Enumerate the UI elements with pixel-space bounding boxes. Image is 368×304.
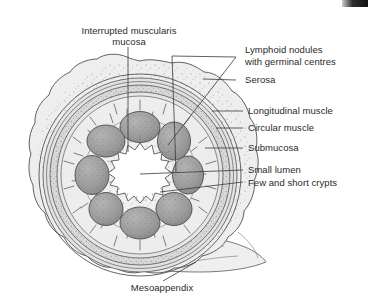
label-muscularis-mucosa-line1: Interrupted muscularis (81, 25, 176, 36)
label-few-and-short-crypts: Few and short crypts (248, 177, 337, 188)
label-serosa: Serosa (245, 74, 276, 85)
label-circular-muscle: Circular muscle (248, 122, 314, 133)
label-small-lumen: Small lumen (248, 164, 301, 175)
label-lymphoid-nodules-line2: with germinal centres (244, 56, 336, 67)
label-lymphoid-nodules-line1: Lymphoid nodules (245, 44, 323, 55)
label-mesoappendix: Mesoappendix (131, 282, 194, 293)
leader-lymphoid-b (172, 56, 236, 57)
label-longitudinal-muscle: Longitudinal muscle (248, 105, 333, 116)
label-submucosa: Submucosa (248, 142, 299, 153)
appendix-cross-section-figure: Interrupted muscularis mucosa Lymphoid n… (0, 0, 368, 304)
scan-artifact (342, 0, 368, 7)
label-muscularis-mucosa-line2: mucosa (112, 36, 146, 47)
